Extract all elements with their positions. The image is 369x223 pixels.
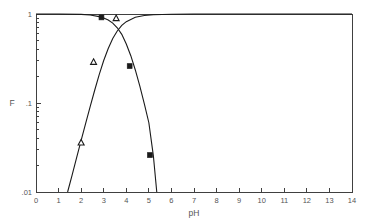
x-tick-label: 14 xyxy=(348,196,356,205)
x-tick-label: 1 xyxy=(56,196,60,205)
x-tick-label: 4 xyxy=(124,196,128,205)
data-point-marker xyxy=(113,15,119,21)
x-tick-label: 3 xyxy=(102,196,106,205)
x-tick-label: 11 xyxy=(280,196,288,205)
curve-falling-curve xyxy=(36,14,157,192)
data-point-marker xyxy=(78,139,84,145)
y-tick-label: 1 xyxy=(28,10,32,19)
curve-rising-curve xyxy=(68,14,352,192)
chart-canvas: 01234567891011121314.01.11FpH xyxy=(0,0,369,223)
chart-figure: 01234567891011121314.01.11FpH xyxy=(0,0,369,223)
x-axis-title: pH xyxy=(189,208,200,218)
x-tick-label: 12 xyxy=(303,196,311,205)
x-tick-label: 0 xyxy=(34,196,38,205)
x-tick-label: 7 xyxy=(192,196,196,205)
x-tick-label: 6 xyxy=(169,196,173,205)
x-tick-label: 8 xyxy=(214,196,218,205)
x-tick-label: 9 xyxy=(237,196,241,205)
x-tick-label: 13 xyxy=(325,196,333,205)
x-tick-label: 5 xyxy=(147,196,151,205)
data-point-marker xyxy=(127,64,132,69)
data-point-marker xyxy=(99,15,104,20)
y-tick-label: .1 xyxy=(26,99,32,108)
y-tick-label: .01 xyxy=(22,188,32,197)
x-tick-label: 2 xyxy=(79,196,83,205)
data-point-marker xyxy=(91,59,97,65)
y-axis-title: F xyxy=(9,98,14,108)
x-tick-label: 10 xyxy=(258,196,266,205)
plot-frame xyxy=(36,14,352,192)
data-point-marker xyxy=(148,153,153,158)
